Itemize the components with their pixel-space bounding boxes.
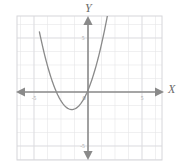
- x-tick-label-neg5: -5: [32, 95, 37, 101]
- graph-figure: -5 5 5 -5 0 Y X: [0, 0, 185, 162]
- y-axis-label: Y: [85, 2, 92, 14]
- coordinate-plane: -5 5 5 -5 0: [0, 0, 185, 162]
- x-tick-label-pos5: 5: [141, 95, 144, 101]
- y-tick-label-neg5: -5: [80, 143, 85, 149]
- x-axis-label: X: [168, 83, 175, 95]
- y-tick-label-pos5: 5: [82, 35, 85, 41]
